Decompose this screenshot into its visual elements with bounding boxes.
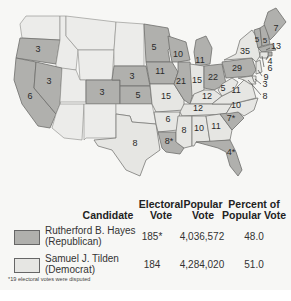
label-new-york: 35 (240, 46, 250, 56)
label-ohio: 22 (208, 72, 218, 82)
label-kentucky: 12 (202, 91, 212, 101)
label-texas: 8 (132, 138, 137, 148)
percent-popular-vote: 48.0 (234, 231, 274, 242)
label-west-virginia: 5 (220, 83, 225, 93)
percent-popular-vote: 51.0 (234, 259, 274, 270)
label-pennsylvania: 29 (232, 63, 242, 73)
state-wyoming (78, 50, 114, 80)
header-percent-2: Popular Vote (218, 210, 290, 221)
candidate-name: Rutherford B. Hayes (45, 225, 136, 236)
label-maine: 7 (273, 23, 278, 33)
label-nebraska: 3 (129, 71, 134, 81)
us-electoral-map: 3 6 3 3 3 5 8 5 11 15 6 8* 10 21 11 15 2… (0, 0, 291, 195)
label-arkansas: 6 (165, 114, 170, 124)
label-louisiana: 8* (165, 136, 174, 146)
popular-vote: 4,036,572 (172, 231, 232, 242)
label-iowa: 11 (155, 66, 164, 76)
label-tennessee: 12 (193, 103, 203, 113)
label-new-hampshire: 5 (263, 36, 268, 45)
candidate-name: Samuel J. Tilden (45, 253, 119, 264)
candidate-party: (Republican) (45, 236, 102, 247)
label-illinois: 21 (176, 76, 186, 86)
label-wisconsin: 10 (173, 49, 183, 59)
label-florida: 4* (227, 147, 236, 157)
state-dakota (114, 22, 144, 66)
electoral-vote: 185* (132, 231, 172, 242)
candidate-party: (Democrat) (45, 264, 95, 275)
label-south-carolina: 7* (227, 113, 236, 123)
label-california: 6 (27, 91, 32, 101)
label-minnesota: 5 (151, 42, 156, 52)
disputed-votes-footnote: *19 electoral votes were disputed (8, 276, 90, 282)
popular-vote: 4,284,020 (172, 259, 232, 270)
label-oregon: 3 (35, 44, 40, 54)
label-delaware: 3 (262, 79, 267, 89)
label-alabama: 10 (194, 123, 204, 133)
label-virginia: 11 (231, 85, 240, 95)
label-missouri: 15 (161, 91, 171, 101)
label-mississippi: 8 (181, 125, 186, 135)
label-indiana: 15 (192, 75, 202, 85)
label-colorado: 3 (99, 87, 104, 97)
label-kansas: 5 (135, 90, 140, 100)
republican-swatch (14, 230, 40, 245)
label-georgia: 11 (211, 121, 220, 131)
electoral-vote: 184 (132, 259, 172, 270)
state-washington (20, 16, 60, 40)
label-massachusetts: 13 (271, 41, 281, 51)
state-florida (196, 140, 242, 176)
label-michigan: 11 (195, 55, 204, 65)
label-north-carolina: 10 (231, 100, 241, 110)
election-map-panel: 3 6 3 3 3 5 8 5 11 15 6 8* 10 21 11 15 2… (0, 0, 291, 290)
state-minnesota (144, 24, 172, 62)
state-new-mexico (84, 104, 116, 140)
label-nevada: 3 (46, 76, 51, 86)
label-vermont: 5 (255, 35, 260, 44)
state-montana (66, 16, 116, 50)
label-maryland: 8 (262, 91, 267, 101)
democrat-swatch (14, 258, 40, 273)
